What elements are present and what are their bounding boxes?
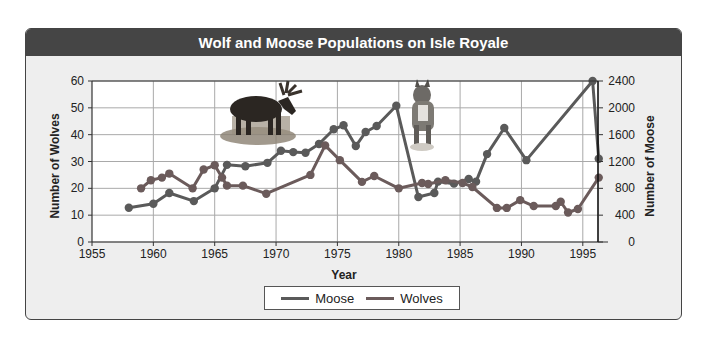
y2-tick-label: 2000 xyxy=(608,101,635,115)
x-tick-label: 1980 xyxy=(385,247,412,261)
chart-plot: 0102030405060040080012001600200024001955… xyxy=(26,29,681,319)
data-point xyxy=(277,147,285,155)
data-point xyxy=(424,180,432,188)
data-point xyxy=(165,169,173,177)
y2-tick-label: 1600 xyxy=(608,128,635,142)
x-tick-label: 1960 xyxy=(140,247,167,261)
data-point xyxy=(190,197,198,205)
data-point xyxy=(301,149,309,157)
x-axis-label: Year xyxy=(331,268,357,282)
legend-label-moose: Moose xyxy=(315,291,354,306)
data-point xyxy=(321,141,329,149)
legend: Moose Wolves xyxy=(264,286,460,310)
data-point xyxy=(370,172,378,180)
data-point xyxy=(149,200,157,208)
y-axis-label-moose: Number of Moose xyxy=(643,115,657,217)
data-point xyxy=(263,159,271,167)
data-point xyxy=(211,161,219,169)
data-point xyxy=(458,179,466,187)
data-point xyxy=(414,193,422,201)
data-point xyxy=(392,102,400,110)
data-point xyxy=(557,198,565,206)
data-point xyxy=(137,184,145,192)
data-point xyxy=(352,142,360,150)
data-point xyxy=(125,204,133,212)
data-point xyxy=(239,181,247,189)
data-point xyxy=(211,184,219,192)
data-point xyxy=(395,184,403,192)
x-tick-label: 1975 xyxy=(324,247,351,261)
data-point xyxy=(493,204,501,212)
data-point xyxy=(147,176,155,184)
data-point xyxy=(223,181,231,189)
data-point xyxy=(241,162,249,170)
data-point xyxy=(306,171,314,179)
y2-tick-label: 800 xyxy=(615,181,635,195)
moose-line-swatch xyxy=(281,297,309,300)
x-tick-label: 1995 xyxy=(569,247,596,261)
x-tick-label: 1985 xyxy=(447,247,474,261)
legend-label-wolves: Wolves xyxy=(400,291,442,306)
y-axis-label-wolves: Number of Wolves xyxy=(48,113,62,218)
chart-panel: Wolf and Moose Populations on Isle Royal… xyxy=(25,28,682,320)
data-point xyxy=(564,208,572,216)
data-point xyxy=(483,150,491,158)
y-tick-label: 10 xyxy=(71,208,85,222)
data-point xyxy=(218,173,226,181)
data-point xyxy=(503,204,511,212)
x-tick-label: 1970 xyxy=(263,247,290,261)
data-point xyxy=(339,121,347,129)
y2-tick-label: 0 xyxy=(628,235,635,249)
data-point xyxy=(500,124,508,132)
data-point xyxy=(574,205,582,213)
data-point xyxy=(522,156,530,164)
data-point xyxy=(165,189,173,197)
y2-tick-label: 1200 xyxy=(608,155,635,169)
data-point xyxy=(262,190,270,198)
y-tick-label: 30 xyxy=(71,155,85,169)
data-point xyxy=(430,189,438,197)
data-point xyxy=(188,184,196,192)
y-tick-label: 20 xyxy=(71,181,85,195)
data-point xyxy=(358,178,366,186)
data-point xyxy=(372,122,380,130)
data-point xyxy=(199,165,207,173)
data-point xyxy=(336,156,344,164)
data-point xyxy=(468,183,476,191)
data-point xyxy=(441,176,449,184)
data-point xyxy=(516,196,524,204)
x-tick-label: 1990 xyxy=(508,247,535,261)
x-tick-label: 1955 xyxy=(79,247,106,261)
y2-tick-label: 400 xyxy=(615,208,635,222)
x-tick-label: 1965 xyxy=(201,247,228,261)
data-point xyxy=(330,125,338,133)
y-tick-label: 60 xyxy=(71,74,85,88)
data-point xyxy=(223,161,231,169)
data-point xyxy=(530,202,538,210)
y-tick-label: 40 xyxy=(71,128,85,142)
data-point xyxy=(361,128,369,136)
legend-item-moose: Moose xyxy=(281,291,354,306)
data-point xyxy=(158,173,166,181)
y-tick-label: 50 xyxy=(71,101,85,115)
y2-tick-label: 2400 xyxy=(608,74,635,88)
wolves-line-swatch xyxy=(366,297,394,300)
data-point xyxy=(289,148,297,156)
legend-item-wolves: Wolves xyxy=(366,291,442,306)
